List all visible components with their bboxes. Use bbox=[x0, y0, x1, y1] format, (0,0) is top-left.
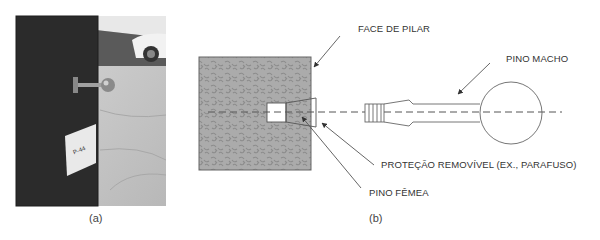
leader-face-de-pilar bbox=[314, 36, 340, 67]
label-pino-macho: PINO MACHO bbox=[506, 53, 568, 64]
male-pin bbox=[365, 82, 542, 144]
figure-canvas: P-44 bbox=[0, 0, 600, 240]
photo-pillar-pin: P-44 bbox=[16, 16, 166, 206]
label-protecao-removivel: PROTEÇÃO REMOVÍVEL (EX., PARAFUSO) bbox=[381, 159, 577, 170]
label-face-de-pilar: FACE DE PILAR bbox=[358, 23, 430, 34]
caption-b: (b) bbox=[369, 212, 382, 224]
car-icon bbox=[132, 34, 166, 62]
caption-a: (a) bbox=[89, 212, 102, 224]
pillar-face bbox=[199, 57, 311, 170]
leader-pino-macho bbox=[458, 63, 490, 94]
label-pino-femea: PINO FÊMEA bbox=[369, 187, 429, 198]
leader-protecao bbox=[322, 123, 374, 165]
